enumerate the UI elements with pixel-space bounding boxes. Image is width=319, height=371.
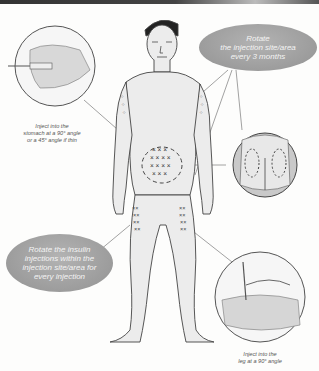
svg-text:××: ××: [133, 219, 139, 225]
leg-caption-line-1: Inject into the: [225, 351, 295, 358]
svg-text:⁘: ⁘: [199, 110, 203, 115]
svg-text:⁘: ⁘: [200, 102, 204, 107]
svg-text:××: ××: [180, 219, 186, 225]
rotate-site-line-3: every 3 months: [220, 52, 296, 61]
svg-text:××: ××: [180, 226, 186, 232]
rotate-within-line-2: injections within the: [23, 254, 97, 263]
stomach-caption-line-3: or a 45° angle if thin: [8, 137, 96, 144]
leg-caption-line-2: leg at a 90° angle: [225, 358, 295, 365]
rotate-site-line-1: Rotate: [220, 34, 296, 43]
svg-text:⁘: ⁘: [122, 110, 126, 115]
svg-text:⁘: ⁘: [121, 102, 125, 107]
svg-text:× × × ×: × × × ×: [150, 154, 171, 161]
svg-text:× × ×: × × ×: [152, 170, 167, 177]
rotate-within-line-4: every injection: [23, 272, 97, 281]
svg-text:××: ××: [179, 212, 185, 218]
buttocks-injection-inset: [233, 133, 297, 197]
rotate-within-line-1: Rotate the insulin: [23, 245, 97, 254]
rotate-site-bubble: Rotate the injection site/area every 3 m…: [199, 24, 317, 71]
stomach-caption-line-2: stomach at a 90° angle: [8, 130, 96, 137]
rotate-site-line-2: the injection site/area: [220, 43, 296, 52]
stomach-caption-line-1: Inject into the: [8, 123, 96, 130]
rotate-within-bubble: Rotate the insulin injections within the…: [6, 234, 113, 292]
human-figure: [110, 20, 214, 342]
svg-text:× × ×: × × ×: [152, 146, 167, 153]
rotate-within-line-3: injection site/area for: [23, 263, 97, 272]
stomach-caption: Inject into the stomach at a 90° angle o…: [8, 123, 96, 144]
svg-text:⁘: ⁘: [120, 94, 124, 99]
svg-text:××: ××: [132, 205, 138, 211]
svg-text:× × × ×: × × × ×: [150, 162, 171, 169]
leg-injection-inset: [215, 252, 305, 342]
svg-text:××: ××: [134, 226, 140, 232]
stomach-injection-inset: [8, 26, 95, 106]
leg-caption: Inject into the leg at a 90° angle: [225, 351, 295, 365]
svg-text:××: ××: [179, 205, 185, 211]
svg-text:××: ××: [133, 212, 139, 218]
svg-text:⁘: ⁘: [199, 94, 203, 99]
